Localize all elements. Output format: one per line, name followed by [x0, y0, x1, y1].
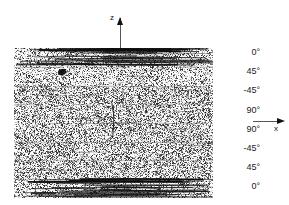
x-axis-label: x	[274, 125, 278, 133]
laminate-micrograph	[14, 48, 213, 198]
ply-angle-label: 45°	[246, 163, 260, 172]
micrograph-figure: 0°45°-45°90°90°-45°45°0° z x	[0, 0, 289, 205]
ply-angle-label: -45°	[243, 144, 260, 153]
x-axis-arrowhead-icon	[277, 118, 285, 124]
z-axis-indicator: z	[112, 12, 130, 48]
z-axis-label: z	[110, 14, 114, 22]
ply-angle-label: 0°	[251, 182, 260, 191]
ply-angle-label: 45°	[246, 67, 260, 76]
ply-angle-label: 0°	[251, 48, 260, 57]
ply-angle-label: -45°	[243, 86, 260, 95]
z-axis-arrowhead-icon	[117, 17, 123, 25]
micrograph-canvas	[14, 48, 213, 198]
x-axis-indicator: x	[253, 114, 287, 134]
